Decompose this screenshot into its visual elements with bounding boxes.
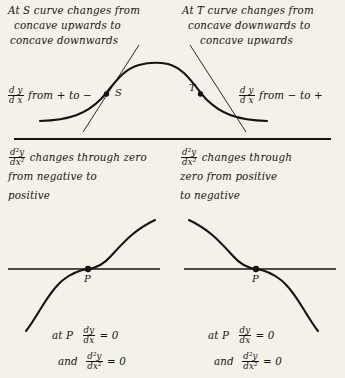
right-formula-2-prefix: and (214, 355, 234, 368)
middle-right-line-3: to negative (180, 189, 240, 202)
right-formula-2-fraction: d²y dx² (242, 352, 258, 371)
right-formula-line-1: at P dy dx = 0 (208, 326, 275, 345)
first-derivative-fraction-left: d y d x (8, 86, 24, 105)
left-formula-1-prefix: at P (52, 329, 73, 342)
point-label-t: T (189, 82, 196, 93)
point-label-p-left: P (84, 273, 91, 284)
left-formula-1-equals: = 0 (100, 329, 119, 342)
middle-left-line-2: from negative to (8, 170, 97, 183)
first-derivative-denominator-left: d x (8, 96, 24, 105)
right-formula-1-fraction: dy dx (239, 326, 252, 345)
middle-left-text-1: changes through zero (30, 151, 147, 164)
point-marker-t (198, 91, 203, 96)
point-marker-p-left (85, 266, 91, 272)
diagram-page: At S curve changes from concave upwards … (0, 0, 345, 378)
second-derivative-fraction-right: d²y dx² (181, 148, 197, 167)
left-formula-line-2: and d²y dx² = 0 (58, 352, 126, 371)
right-formula-1-equals: = 0 (256, 329, 275, 342)
middle-right-text-1: changes through (202, 151, 292, 164)
left-formula-2-denominator: dx² (86, 362, 102, 371)
right-first-derivative-text: from − to + (259, 89, 323, 102)
first-derivative-denominator-right: d x (239, 96, 255, 105)
section-divider (0, 134, 345, 144)
left-formula-2-prefix: and (58, 355, 78, 368)
middle-right-line-1: d²y dx² changes through (180, 148, 292, 167)
right-first-derivative-note: d y d x from − to + (238, 86, 323, 105)
left-first-derivative-note: d y d x from + to − (7, 86, 92, 105)
right-formula-2-equals: = 0 (263, 355, 282, 368)
right-formula-1-denominator: dx (239, 336, 252, 345)
middle-left-line-1: d²y dx² changes through zero (8, 148, 147, 167)
second-derivative-denominator-left: dx² (9, 158, 25, 167)
bell-curve-figure (0, 0, 345, 145)
middle-right-line-2: zero from positive (180, 170, 277, 183)
left-formula-2-fraction: d²y dx² (86, 352, 102, 371)
left-formula-2-equals: = 0 (107, 355, 126, 368)
point-marker-p-right (253, 266, 259, 272)
middle-left-line-3: positive (8, 189, 50, 202)
second-derivative-fraction-left: d²y dx² (9, 148, 25, 167)
point-label-p-right: P (252, 273, 259, 284)
point-marker-s (104, 91, 109, 96)
second-derivative-denominator-right: dx² (181, 158, 197, 167)
right-formula-2-denominator: dx² (242, 362, 258, 371)
right-formula-line-2: and d²y dx² = 0 (214, 352, 282, 371)
left-formula-1-fraction: dy dx (83, 326, 96, 345)
right-formula-1-prefix: at P (208, 329, 229, 342)
point-label-s: S (115, 87, 122, 98)
left-formula-1-denominator: dx (83, 336, 96, 345)
left-first-derivative-text: from + to − (28, 89, 92, 102)
left-formula-line-1: at P dy dx = 0 (52, 326, 119, 345)
first-derivative-fraction-right: d y d x (239, 86, 255, 105)
